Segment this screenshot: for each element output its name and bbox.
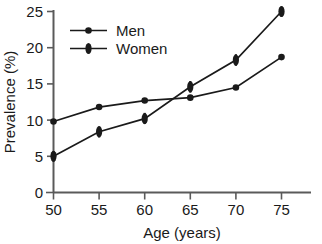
data-point-marker	[187, 81, 193, 92]
data-point-marker	[233, 54, 239, 65]
y-tick-label-25: 25	[26, 3, 43, 20]
legend-item-women[interactable]: Women	[70, 40, 167, 57]
y-axis-title: Prevalence (%)	[1, 51, 18, 154]
y-tick-label-15: 15	[26, 75, 43, 92]
x-axis-ticks	[54, 193, 282, 200]
y-tick-label-10: 10	[26, 112, 43, 129]
data-point-marker	[142, 113, 148, 124]
y-tick-label-20: 20	[26, 39, 43, 56]
legend-women-label: Women	[116, 40, 167, 57]
series-men-markers	[50, 54, 285, 125]
prevalence-by-age-line-chart: 0 5 10 15 20 25 50 55 60 65 70 75 Age (y…	[0, 0, 322, 244]
data-point-marker	[278, 54, 285, 61]
data-point-marker	[50, 151, 56, 162]
y-axis-ticks	[46, 12, 54, 193]
data-point-marker	[233, 84, 240, 91]
y-tick-label-5: 5	[35, 148, 43, 165]
data-point-marker	[96, 126, 102, 137]
x-tick-label-55: 55	[91, 201, 108, 218]
x-tick-label-60: 60	[136, 201, 153, 218]
chart-legend: Men Women	[70, 22, 167, 57]
x-axis-title: Age (years)	[143, 224, 221, 241]
legend-item-men[interactable]: Men	[70, 22, 145, 39]
data-point-marker	[141, 97, 148, 104]
data-point-marker	[50, 118, 57, 125]
data-point-marker	[278, 6, 284, 17]
x-tick-label-70: 70	[228, 201, 245, 218]
data-point-marker	[187, 94, 194, 101]
legend-women-marker-icon	[85, 43, 91, 54]
x-tick-label-65: 65	[182, 201, 199, 218]
legend-men-marker-icon	[85, 27, 92, 34]
chart-container: 0 5 10 15 20 25 50 55 60 65 70 75 Age (y…	[0, 0, 322, 244]
y-tick-label-0: 0	[35, 184, 43, 201]
series-men-line-group	[54, 57, 282, 121]
x-tick-label-75: 75	[273, 201, 290, 218]
legend-men-label: Men	[116, 22, 145, 39]
series-men-line	[54, 57, 282, 121]
data-point-marker	[96, 104, 103, 111]
x-tick-label-50: 50	[45, 201, 62, 218]
